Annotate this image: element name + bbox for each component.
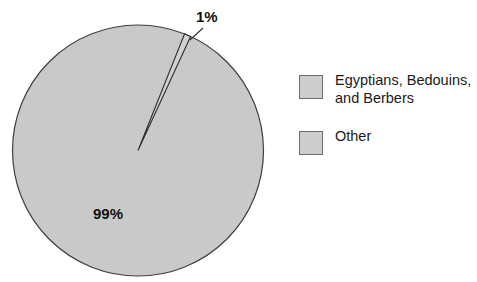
legend-item-other[interactable]: Other (299, 128, 474, 155)
leader-line-1pct (190, 28, 203, 40)
legend-item-label: Egyptians, Bedouins, and Berbers (335, 72, 471, 107)
legend-item-label: Other (335, 128, 371, 146)
slice-label-minor: 1% (196, 8, 218, 25)
pie-chart-figure: 1% 99% Egyptians, Bedouins, and Berbers … (0, 0, 477, 282)
chart-legend: Egyptians, Bedouins, and Berbers Other (299, 72, 474, 176)
legend-item-egyptians-bedouins-berbers[interactable]: Egyptians, Bedouins, and Berbers (299, 72, 474, 107)
slice-label-major: 99% (93, 205, 123, 222)
legend-swatch-icon (299, 75, 323, 99)
legend-swatch-icon (299, 131, 323, 155)
